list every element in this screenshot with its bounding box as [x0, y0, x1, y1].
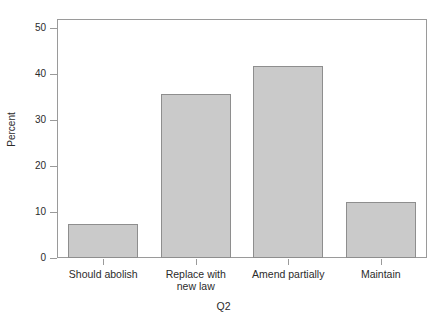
y-axis-tick-mark	[50, 258, 57, 259]
x-axis-tick-label: Amend partially	[242, 268, 335, 280]
x-axis-tick-mark	[103, 259, 104, 265]
y-axis-tick-label: 50	[4, 23, 46, 33]
bar-chart-figure: 01020304050 Percent Should abolishReplac…	[0, 0, 447, 326]
y-axis: 01020304050	[0, 0, 57, 326]
x-axis-title: Q2	[0, 300, 447, 312]
y-axis-tick-mark	[50, 120, 57, 121]
y-axis-tick-mark	[50, 166, 57, 167]
x-axis-tick-label: Maintain	[335, 268, 428, 280]
plot-area	[57, 19, 427, 258]
y-axis-tick-label: 40	[4, 69, 46, 79]
y-axis-title: Percent	[6, 100, 17, 160]
y-axis-tick-mark	[50, 212, 57, 213]
bar	[68, 224, 138, 258]
bar	[253, 66, 323, 258]
x-axis-tick-mark	[196, 259, 197, 265]
bar	[346, 202, 416, 258]
y-axis-tick-mark	[50, 28, 57, 29]
x-axis-tick-mark	[288, 259, 289, 265]
x-axis-tick-label: Should abolish	[57, 268, 150, 280]
x-axis-tick-mark	[381, 259, 382, 265]
y-axis-tick-mark	[50, 74, 57, 75]
x-axis-tick-label: Replace with new law	[150, 268, 243, 292]
y-axis-tick-label: 0	[4, 253, 46, 263]
y-axis-tick-label: 10	[4, 207, 46, 217]
y-axis-tick-label: 20	[4, 161, 46, 171]
bar	[161, 94, 231, 258]
